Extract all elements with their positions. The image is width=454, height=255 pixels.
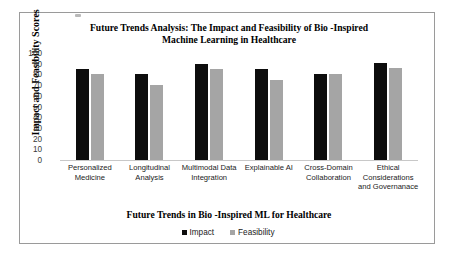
y-tick-label: 50 [20,102,42,111]
x-category-label-line: Considerations [352,173,424,183]
bar-impact [255,69,268,160]
y-tick-label: 20 [20,134,42,143]
y-axis-tick-labels: 1009080706050403020100 [18,53,42,160]
legend-label: Feasibility [238,228,274,237]
y-tick-label: 30 [20,123,42,132]
legend-swatch-icon [230,230,235,235]
legend-item-feasibility[interactable]: Feasibility [230,228,274,237]
y-tick-label: 100 [20,49,42,58]
x-axis-line [60,160,418,161]
chart-legend: ImpactFeasibility [20,228,436,237]
bar-impact [195,64,208,160]
bar-impact [76,69,89,160]
bar-feasibility [329,74,342,160]
bar-feasibility [389,68,402,160]
bar-feasibility [210,69,223,160]
x-category-label-line: Ethical [352,163,424,173]
bar-feasibility [150,85,163,160]
bar-impact [314,74,327,160]
y-tick-label: 40 [20,113,42,122]
bar-impact [135,74,148,160]
x-category-label: EthicalConsiderationsand Governanace [352,163,424,192]
bar-feasibility [270,80,283,160]
x-axis-category-labels: PersonalizedMedicineLongitudinalAnalysis… [60,163,418,209]
bar-group [358,53,418,160]
chart-title-line-2: Machine Learning in Healthcare [62,34,396,46]
bar-group [239,53,299,160]
bar-group [299,53,359,160]
legend-swatch-icon [182,230,187,235]
x-category-label-line: Integration [173,173,245,183]
y-tick-label: 70 [20,81,42,90]
x-category-label-line: and Governanace [352,182,424,192]
bar-feasibility [91,74,104,160]
chart-title-line-1: Future Trends Analysis: The Impact and F… [62,22,396,34]
bar-group [120,53,180,160]
bar-impact [374,63,387,160]
plot-area [60,53,418,160]
legend-label: Impact [190,228,215,237]
artifact-mark [75,14,81,17]
y-tick-label: 0 [20,156,42,165]
chart-title: Future Trends Analysis: The Impact and F… [62,22,396,45]
x-axis-title: Future Trends in Bio -Inspired ML for He… [62,209,396,220]
bar-group [60,53,120,160]
bar-group [179,53,239,160]
bars-layer [60,53,418,160]
y-tick-label: 60 [20,91,42,100]
legend-item-impact[interactable]: Impact [182,228,215,237]
y-tick-label: 10 [20,145,42,154]
y-tick-label: 80 [20,70,42,79]
y-tick-label: 90 [20,59,42,68]
chart-container: Future Trends Analysis: The Impact and F… [19,12,435,244]
